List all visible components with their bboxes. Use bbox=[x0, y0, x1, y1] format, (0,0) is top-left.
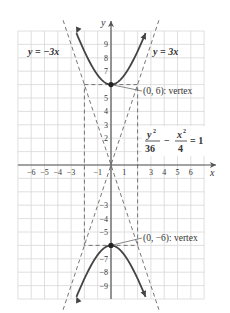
y-tick-label: −8 bbox=[99, 268, 108, 277]
x-tick-label: 1 bbox=[122, 168, 126, 177]
eq-minus: − bbox=[164, 135, 170, 146]
y-axis-label: y bbox=[100, 17, 106, 28]
y-tick-label: 2 bbox=[104, 134, 108, 143]
vertex-bottom-label: (0, −6): vertex bbox=[143, 233, 198, 244]
y-tick-label: 4 bbox=[104, 107, 108, 116]
asymptote-left-label: y = −3x bbox=[27, 46, 59, 57]
y-tick-label: 3 bbox=[104, 121, 108, 130]
eq-y-den: 36 bbox=[145, 143, 155, 154]
y-tick-label: −9 bbox=[99, 282, 108, 291]
asymptote-right-label: y = 3x bbox=[152, 46, 178, 57]
vertex-top-annotation: (0, 6): vertex bbox=[111, 85, 193, 97]
eq-y-exp: 2 bbox=[153, 128, 156, 134]
x-tick-label: 6 bbox=[189, 168, 193, 177]
vertex-top-label: (0, 6): vertex bbox=[143, 86, 193, 97]
x-tick-label: −6 bbox=[27, 168, 36, 177]
hyperbola-graph: −6−5−4−3−1134569875432−3−4−5−7−8−9 y x y… bbox=[0, 0, 230, 313]
x-tick-label: 3 bbox=[149, 168, 153, 177]
y-tick-label: −4 bbox=[99, 215, 108, 224]
y-tick-label: −3 bbox=[99, 201, 108, 210]
y-tick-label: 9 bbox=[104, 40, 108, 49]
curve-arrow bbox=[76, 26, 82, 33]
curve-arrow bbox=[76, 297, 82, 304]
vertex-point bbox=[108, 243, 113, 248]
y-tick-label: −5 bbox=[99, 228, 108, 237]
x-tick-label: 4 bbox=[162, 168, 166, 177]
x-tick-label: −3 bbox=[67, 168, 76, 177]
y-tick-label: 5 bbox=[104, 94, 108, 103]
eq-x-exp: 2 bbox=[183, 128, 186, 134]
axes bbox=[18, 21, 216, 299]
x-tick-label: −5 bbox=[40, 168, 49, 177]
eq-x-den: 4 bbox=[178, 143, 183, 154]
eq-x: x bbox=[176, 129, 182, 140]
equation-label: y 2 36 − x 2 4 = 1 bbox=[142, 126, 208, 156]
eq-y: y bbox=[146, 129, 152, 140]
x-axis-label: x bbox=[209, 167, 215, 178]
x-tick-label: 5 bbox=[176, 168, 180, 177]
x-tick-label: −4 bbox=[54, 168, 63, 177]
eq-equals: = 1 bbox=[190, 135, 203, 146]
vertex-point bbox=[108, 82, 113, 87]
y-tick-label: 8 bbox=[104, 54, 108, 63]
x-tick-label: −1 bbox=[93, 168, 102, 177]
y-tick-label: 7 bbox=[104, 67, 108, 76]
y-tick-label: −7 bbox=[99, 255, 108, 264]
